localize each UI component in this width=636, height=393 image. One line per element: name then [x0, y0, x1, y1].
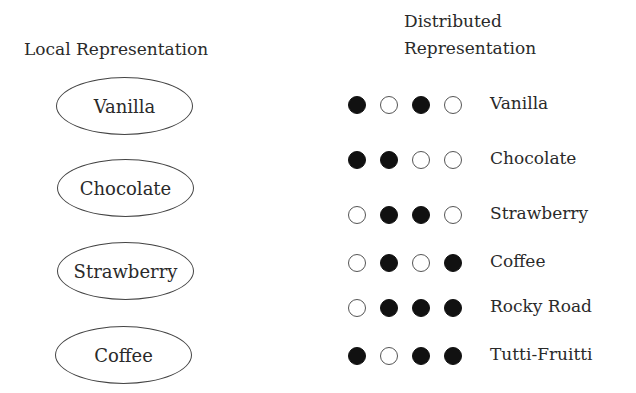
empty-unit-icon	[444, 96, 462, 114]
node-label: Coffee	[94, 345, 153, 366]
empty-unit-icon	[348, 254, 366, 272]
distributed-row: Vanilla	[348, 95, 476, 115]
local-node-coffee: Coffee	[55, 326, 192, 384]
local-node-chocolate: Chocolate	[57, 159, 194, 217]
filled-unit-icon	[412, 299, 430, 317]
empty-unit-icon	[380, 96, 398, 114]
distributed-heading-line2: Representation	[404, 37, 536, 59]
distributed-row: Rocky Road	[348, 298, 476, 318]
row-label: Chocolate	[490, 148, 576, 168]
local-node-strawberry: Strawberry	[57, 242, 194, 300]
row-label: Rocky Road	[490, 296, 592, 316]
empty-unit-icon	[412, 254, 430, 272]
row-label: Tutti-Fruitti	[490, 344, 593, 364]
filled-unit-icon	[348, 347, 366, 365]
filled-unit-icon	[380, 299, 398, 317]
row-label: Strawberry	[490, 203, 588, 223]
empty-unit-icon	[348, 206, 366, 224]
node-label: Vanilla	[94, 96, 156, 117]
filled-unit-icon	[444, 254, 462, 272]
filled-unit-icon	[380, 206, 398, 224]
distributed-row: Chocolate	[348, 150, 476, 170]
node-label: Strawberry	[74, 261, 178, 282]
node-label: Chocolate	[80, 178, 172, 199]
empty-unit-icon	[444, 206, 462, 224]
filled-unit-icon	[348, 151, 366, 169]
filled-unit-icon	[444, 347, 462, 365]
row-label: Coffee	[490, 251, 545, 271]
distributed-row: Strawberry	[348, 205, 476, 225]
filled-unit-icon	[380, 254, 398, 272]
filled-unit-icon	[444, 299, 462, 317]
local-node-vanilla: Vanilla	[56, 77, 193, 135]
distributed-heading-line1: Distributed	[404, 10, 502, 32]
distributed-row: Coffee	[348, 253, 476, 273]
local-heading: Local Representation	[24, 38, 208, 60]
row-label: Vanilla	[490, 93, 548, 113]
empty-unit-icon	[412, 151, 430, 169]
filled-unit-icon	[412, 96, 430, 114]
distributed-row: Tutti-Fruitti	[348, 346, 476, 366]
filled-unit-icon	[412, 347, 430, 365]
empty-unit-icon	[380, 347, 398, 365]
empty-unit-icon	[444, 151, 462, 169]
filled-unit-icon	[380, 151, 398, 169]
filled-unit-icon	[412, 206, 430, 224]
empty-unit-icon	[348, 299, 366, 317]
filled-unit-icon	[348, 96, 366, 114]
